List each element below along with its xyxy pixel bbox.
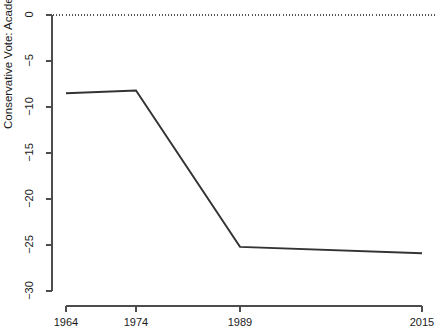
chart-container: Conservative Vote: Academics (%) − Publi… <box>0 0 444 333</box>
line-chart-plot <box>0 0 444 333</box>
y-tick-label-minus-5: −5 <box>24 44 35 78</box>
y-tick-label-minus-25: −25 <box>24 228 35 262</box>
x-tick-label-1974: 1974 <box>114 317 158 328</box>
y-tick-label-minus-15: −15 <box>24 136 35 170</box>
y-axis-title: Conservative Vote: Academics (%) − Publi… <box>0 0 16 158</box>
y-tick-label-minus-20: −20 <box>24 182 35 216</box>
y-tick-label-minus-30: −30 <box>24 274 35 308</box>
y-tick-label-minus-10: −10 <box>24 90 35 124</box>
x-tick-label-1989: 1989 <box>218 317 262 328</box>
data-series-line <box>66 90 422 253</box>
x-tick-label-1964: 1964 <box>44 317 88 328</box>
y-tick-label-0: 0 <box>24 0 35 32</box>
x-tick-label-2015: 2015 <box>400 317 444 328</box>
